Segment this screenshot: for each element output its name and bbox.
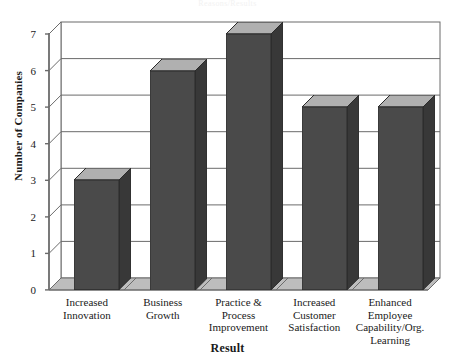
bar-side-face	[119, 168, 131, 290]
x-category-line: Customer	[273, 309, 355, 322]
y-tick-label-7: 7	[18, 29, 36, 39]
x-category-line: Enhanced	[349, 296, 431, 309]
bar-2	[150, 59, 207, 290]
bar-side-face	[423, 95, 435, 290]
bar-front-face	[150, 71, 195, 290]
bar-4	[302, 95, 359, 290]
x-category-label-2: BusinessGrowth	[122, 296, 204, 321]
x-category-line: Capability/Org.	[349, 321, 431, 334]
x-category-line: Employee	[349, 309, 431, 322]
bar-front-face	[74, 180, 119, 290]
plot-area: Number of Companies 0 1 2 3 4 5 6 7 Incr…	[0, 0, 455, 300]
y-tick-label-2: 2	[18, 212, 36, 222]
x-category-line: Increased	[46, 296, 128, 309]
bar-side-face	[195, 59, 207, 290]
x-category-label-4: IncreasedCustomerSatisfaction	[273, 296, 355, 334]
x-category-line: Business	[122, 296, 204, 309]
x-axis-title: Result	[0, 341, 455, 356]
x-category-line: Growth	[122, 309, 204, 322]
x-category-label-5: EnhancedEmployeeCapability/Org.Learning	[349, 296, 431, 346]
bar-side-face	[347, 95, 359, 290]
bar-front-face	[302, 107, 347, 290]
x-category-label-3: Practice &ProcessImprovement	[198, 296, 280, 334]
y-tick-label-3: 3	[18, 175, 36, 185]
bar-chart: Reasons/Results	[0, 0, 455, 364]
bar-3	[226, 22, 283, 290]
bar-front-face	[378, 107, 423, 290]
y-tick-label-5: 5	[18, 102, 36, 112]
x-category-line: Innovation	[46, 309, 128, 322]
y-tick-label-4: 4	[18, 139, 36, 149]
y-tick-label-1: 1	[18, 248, 36, 258]
x-category-line: Satisfaction	[273, 321, 355, 334]
y-tick-label-0: 0	[18, 285, 36, 295]
x-category-line: Practice &	[198, 296, 280, 309]
bar-front-face	[226, 34, 271, 290]
x-category-line: Improvement	[198, 321, 280, 334]
bar-5	[378, 95, 435, 290]
x-category-line: Increased	[273, 296, 355, 309]
x-category-label-1: IncreasedInnovation	[46, 296, 128, 321]
bar-side-face	[271, 22, 283, 290]
x-category-line: Process	[198, 309, 280, 322]
bar-1	[74, 168, 131, 290]
left-wall	[49, 22, 61, 290]
y-tick-label-6: 6	[18, 66, 36, 76]
